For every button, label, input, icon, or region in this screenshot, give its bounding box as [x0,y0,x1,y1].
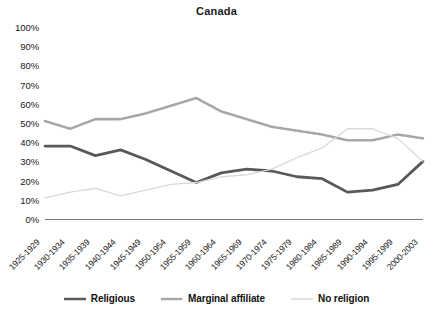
legend-label: Religious [91,293,135,304]
y-axis-tick-label: 70% [20,79,39,90]
series-line [45,98,423,140]
chart-canvas: Canada 100%90%80%70%60%50%40%30%20%10%0%… [0,0,433,316]
legend-swatch-icon [64,295,86,303]
y-axis-tick-label: 50% [20,118,39,129]
y-axis-tick-label: 20% [20,175,39,186]
legend-swatch-icon [161,295,183,303]
chart-title: Canada [0,5,433,17]
y-axis-tick-label: 40% [20,137,39,148]
series-line [45,146,423,192]
y-axis: 100%90%80%70%60%50%40%30%20%10%0% [0,27,42,219]
legend-label: Marginal affiliate [188,293,265,304]
legend-label: No religion [318,293,369,304]
y-axis-tick-label: 100% [15,22,39,33]
y-axis-tick-label: 0% [25,214,39,225]
y-axis-tick-label: 10% [20,194,39,205]
legend-swatch-icon [291,295,313,303]
y-axis-tick-label: 60% [20,98,39,109]
y-axis-tick-label: 30% [20,156,39,167]
y-axis-tick-label: 80% [20,60,39,71]
legend-item[interactable]: Marginal affiliate [161,293,265,304]
legend-item[interactable]: Religious [64,293,135,304]
legend-item[interactable]: No religion [291,293,369,304]
y-axis-tick-label: 90% [20,41,39,52]
series-lines [45,27,423,219]
x-axis-labels: 1925-19291930-19341935-19391940-19441945… [45,221,423,279]
plot-area [45,27,423,219]
chart-legend: ReligiousMarginal affiliateNo religion [0,293,433,304]
